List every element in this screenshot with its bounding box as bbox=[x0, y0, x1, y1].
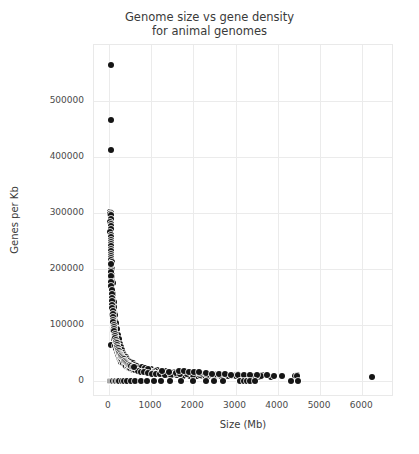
scatter-point bbox=[295, 378, 301, 384]
chart-figure: Genome size vs gene densityfor animal ge… bbox=[0, 0, 419, 454]
scatter-point bbox=[288, 378, 294, 384]
x-tick-label: 6000 bbox=[350, 400, 373, 410]
scatter-point bbox=[108, 273, 114, 279]
scatter-point bbox=[151, 378, 157, 384]
scatter-point bbox=[138, 378, 144, 384]
x-tick-label: 5000 bbox=[308, 400, 331, 410]
x-axis-label: Size (Mb) bbox=[93, 419, 393, 430]
scatter-point bbox=[108, 117, 114, 123]
scatter-points-layer bbox=[94, 45, 392, 395]
scatter-point bbox=[252, 378, 258, 384]
chart-title-line-1: Genome size vs gene density bbox=[0, 10, 419, 24]
scatter-point bbox=[108, 261, 114, 267]
y-tick-label: 400000 bbox=[50, 151, 84, 161]
scatter-point bbox=[220, 378, 226, 384]
scatter-point bbox=[235, 372, 241, 378]
x-tick-label: 2000 bbox=[181, 400, 204, 410]
x-tick-label: 0 bbox=[105, 400, 111, 410]
y-tick-label: 0 bbox=[78, 375, 84, 385]
scatter-point bbox=[167, 378, 173, 384]
y-tick-label: 100000 bbox=[50, 319, 84, 329]
scatter-point bbox=[108, 147, 114, 153]
y-axis-label: Genes per Kb bbox=[9, 186, 20, 253]
x-tick-label: 3000 bbox=[223, 400, 246, 410]
scatter-point bbox=[190, 378, 196, 384]
scatter-point bbox=[159, 368, 165, 374]
y-tick-label: 500000 bbox=[50, 95, 84, 105]
scatter-point bbox=[108, 62, 114, 68]
scatter-point bbox=[209, 371, 215, 377]
y-tick-label: 200000 bbox=[50, 263, 84, 273]
scatter-point bbox=[228, 372, 234, 378]
scatter-point bbox=[216, 371, 222, 377]
scatter-point bbox=[158, 378, 164, 384]
scatter-point bbox=[144, 378, 150, 384]
scatter-point bbox=[178, 378, 184, 384]
scatter-point bbox=[203, 378, 209, 384]
scatter-point bbox=[279, 373, 285, 379]
scatter-point bbox=[131, 364, 137, 370]
plot-area bbox=[93, 44, 393, 396]
chart-title-line-2: for animal genomes bbox=[0, 24, 419, 38]
x-tick-label: 4000 bbox=[265, 400, 288, 410]
scatter-point bbox=[211, 378, 217, 384]
chart-title: Genome size vs gene densityfor animal ge… bbox=[0, 10, 419, 38]
y-tick-label: 300000 bbox=[50, 207, 84, 217]
scatter-point bbox=[271, 373, 277, 379]
scatter-point bbox=[369, 374, 375, 380]
x-tick-label: 1000 bbox=[139, 400, 162, 410]
